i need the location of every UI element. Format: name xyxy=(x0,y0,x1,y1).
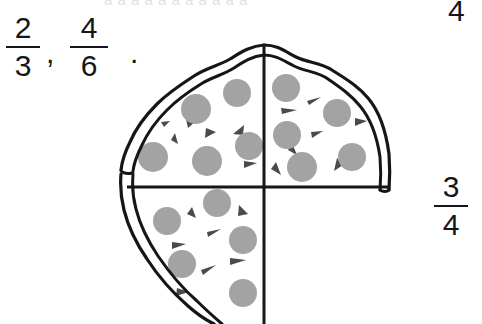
pepperoni xyxy=(229,279,257,307)
pizza-crust-left-notch xyxy=(121,171,133,173)
pepperoni xyxy=(181,94,211,124)
pizza-fraction-diagram xyxy=(0,0,482,324)
pepperoni xyxy=(273,121,301,149)
pepperoni xyxy=(323,99,351,127)
pepperoni xyxy=(203,189,231,217)
pepperoni xyxy=(229,226,257,254)
pepperoni xyxy=(223,79,251,107)
pepperoni xyxy=(272,74,300,102)
pepperoni xyxy=(153,207,181,235)
pizza-crust-cut-end xyxy=(380,190,389,192)
pepperoni xyxy=(338,143,366,171)
pepperoni xyxy=(192,146,222,176)
pepperoni xyxy=(287,152,317,182)
pepperoni xyxy=(235,132,263,160)
worksheet-page: a a a a a a a a a a a 2 3 , 4 6 . 4 3 4 xyxy=(0,0,482,324)
